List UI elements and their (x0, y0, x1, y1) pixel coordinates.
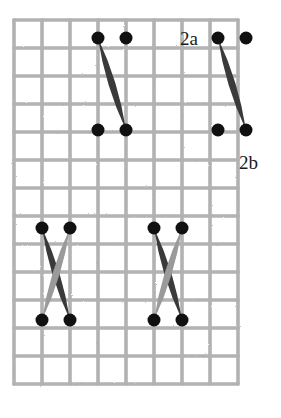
lattice-dot (36, 314, 49, 327)
lattice-dot (212, 32, 225, 45)
lattice-dot (120, 32, 133, 45)
lattice-dot (92, 32, 105, 45)
label-2a: 2a (180, 29, 198, 48)
lattice-dot (240, 32, 253, 45)
lattice-dot (92, 124, 105, 137)
lattice-dot (64, 314, 77, 327)
label-2b: 2b (239, 153, 258, 172)
lattice-dot (64, 222, 77, 235)
lattice-dot (176, 222, 189, 235)
lattice-dot (240, 124, 253, 137)
lattice-dot (148, 222, 161, 235)
lattice-dot (212, 124, 225, 137)
lattice-dot (36, 222, 49, 235)
figure-canvas (0, 0, 281, 418)
lattice-dot (176, 314, 189, 327)
lattice-figure: 2a 2b (0, 0, 281, 418)
lattice-dot (120, 124, 133, 137)
lattice-dot (148, 314, 161, 327)
